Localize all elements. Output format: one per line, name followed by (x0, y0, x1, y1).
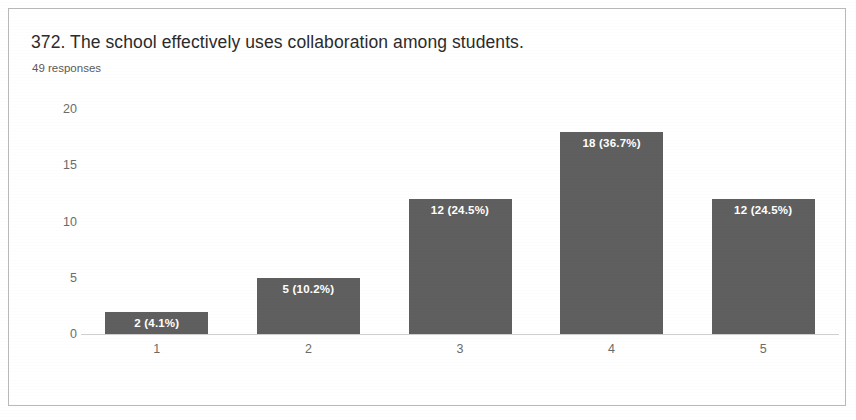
bar-chart: 05101520 2 (4.1%)5 (10.2%)12 (24.5%)18 (… (9, 9, 847, 407)
scanned-page: 372. The school effectively uses collabo… (0, 0, 856, 420)
bar[interactable]: 5 (10.2%) (257, 278, 360, 334)
bar[interactable]: 12 (24.5%) (409, 199, 512, 334)
bar-group: 2 (4.1%) (105, 109, 208, 334)
x-axis-tick-label: 1 (105, 342, 208, 356)
bar-group: 18 (36.7%) (560, 109, 663, 334)
bar-group: 12 (24.5%) (712, 109, 815, 334)
x-axis-tick-label: 2 (257, 342, 360, 356)
bar-group: 5 (10.2%) (257, 109, 360, 334)
survey-result-card: 372. The school effectively uses collabo… (8, 8, 846, 406)
x-axis-tick-label: 4 (560, 342, 663, 356)
y-axis-tick-label: 0 (37, 327, 77, 341)
bar-value-label: 5 (10.2%) (257, 283, 360, 295)
bar-value-label: 12 (24.5%) (409, 204, 512, 216)
x-axis-tick-label: 3 (409, 342, 512, 356)
bar[interactable]: 2 (4.1%) (105, 312, 208, 335)
bar[interactable]: 18 (36.7%) (560, 132, 663, 335)
x-axis-line (81, 334, 839, 335)
y-axis-tick-label: 20 (37, 102, 77, 116)
x-axis-tick-label: 5 (712, 342, 815, 356)
y-axis-tick-label: 5 (37, 271, 77, 285)
bar-value-label: 18 (36.7%) (560, 137, 663, 149)
bar[interactable]: 12 (24.5%) (712, 199, 815, 334)
y-axis-tick-label: 10 (37, 215, 77, 229)
bar-value-label: 2 (4.1%) (105, 317, 208, 329)
y-axis-tick-label: 15 (37, 158, 77, 172)
plot-area: 2 (4.1%)5 (10.2%)12 (24.5%)18 (36.7%)12 … (81, 109, 839, 334)
bar-value-label: 12 (24.5%) (712, 204, 815, 216)
y-axis: 05101520 (37, 9, 77, 407)
bar-group: 12 (24.5%) (409, 109, 512, 334)
